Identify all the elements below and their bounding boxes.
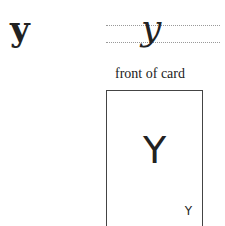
card-corner-letter: Y (185, 205, 192, 217)
cursive-letter: y (141, 10, 161, 46)
card-front: Y Y (106, 90, 203, 226)
guide-line-top (106, 25, 220, 26)
print-letter: y (10, 12, 30, 46)
card-main-letter: Y (143, 131, 166, 169)
card-caption: front of card (115, 66, 225, 82)
guide-line-middle (106, 42, 220, 43)
